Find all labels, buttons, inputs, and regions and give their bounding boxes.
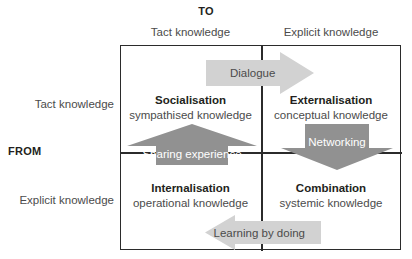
arrow-sharing-experience: Sharing experience	[127, 124, 257, 165]
column-label-tact: Tact knowledge	[120, 26, 261, 38]
quadrant-title: Socialisation	[120, 93, 261, 108]
quadrant-socialisation: Socialisation sympathised knowledge	[120, 93, 261, 122]
arrow-dialogue-label: Dialogue	[206, 52, 314, 94]
quadrant-title: Externalisation	[261, 93, 401, 108]
quadrant-internalisation: Internalisation operational knowledge	[120, 181, 261, 210]
arrow-networking-label: Networking	[281, 124, 393, 170]
seci-matrix-diagram: TO FROM Tact knowledge Explicit knowledg…	[0, 0, 412, 259]
row-label-tact: Tact knowledge	[0, 98, 114, 110]
arrow-learning-by-doing-label: Learning by doing	[205, 215, 321, 250]
from-axis-label: FROM	[8, 145, 42, 157]
quadrant-externalisation: Externalisation conceptual knowledge	[261, 93, 401, 122]
quadrant-title: Combination	[261, 181, 401, 196]
to-axis-label: TO	[0, 5, 412, 17]
quadrant-subtitle: operational knowledge	[120, 196, 261, 211]
quadrant-subtitle: systemic knowledge	[261, 196, 401, 211]
quadrant-combination: Combination systemic knowledge	[261, 181, 401, 210]
row-label-explicit: Explicit knowledge	[0, 194, 114, 206]
quadrant-subtitle: sympathised knowledge	[120, 108, 261, 123]
arrow-dialogue: Dialogue	[206, 52, 314, 94]
arrow-sharing-experience-label: Sharing experience	[127, 124, 257, 165]
column-label-explicit: Explicit knowledge	[261, 26, 401, 38]
arrow-networking: Networking	[281, 124, 393, 170]
quadrant-subtitle: conceptual knowledge	[261, 108, 401, 123]
quadrant-title: Internalisation	[120, 181, 261, 196]
arrow-learning-by-doing: Learning by doing	[205, 215, 321, 250]
